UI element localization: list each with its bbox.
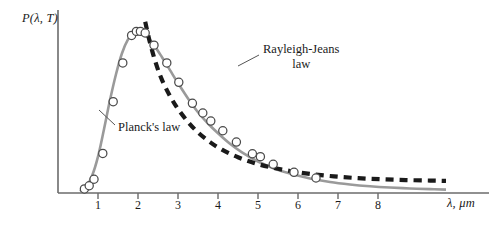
data-point-marker [199,109,207,117]
data-point-marker [119,59,127,67]
axes-group [58,10,489,199]
rayleigh-jeans-law-annotation: Rayleigh-Jeans law [263,42,339,72]
y-axis-label: P(λ, T) [22,11,58,26]
x-tick-label-2: 2 [128,198,148,213]
data-point-marker [175,78,183,86]
data-point-marker [232,138,240,146]
rayleigh-jeans-leader-line [238,55,259,66]
x-tick-label-7: 7 [328,198,348,213]
data-point-marker [290,168,298,176]
data-point-marker [219,127,227,135]
data-point-marker [269,160,277,168]
data-point-marker [99,149,107,157]
data-point-marker [150,41,158,49]
data-point-marker [141,29,149,37]
x-tick-label-1: 1 [88,198,108,213]
blackbody-radiation-figure: P(λ, T) λ, μm 12345678 Planck's law Rayl… [0,0,498,226]
x-tick-label-3: 3 [168,198,188,213]
data-point-marker [207,117,215,125]
planck-law-annotation: Planck's law [118,120,180,135]
data-point-marker [90,175,98,183]
planck-law-label: Planck's law [118,120,180,134]
data-point-marker [188,99,196,107]
data-point-marker [312,174,320,182]
data-point-marker [256,153,264,161]
x-axis-label: λ, μm [447,196,475,211]
rayleigh-jeans-label-line1: Rayleigh-Jeans [263,42,339,56]
x-tick-label-5: 5 [248,198,268,213]
x-tick-label-8: 8 [368,198,388,213]
plot-canvas [0,0,498,226]
data-point-marker [248,150,256,158]
x-tick-label-4: 4 [208,198,228,213]
rayleigh-jeans-label-line2: law [292,57,310,71]
data-point-marker [109,98,117,106]
data-point-marker [163,59,171,67]
x-tick-label-6: 6 [288,198,308,213]
